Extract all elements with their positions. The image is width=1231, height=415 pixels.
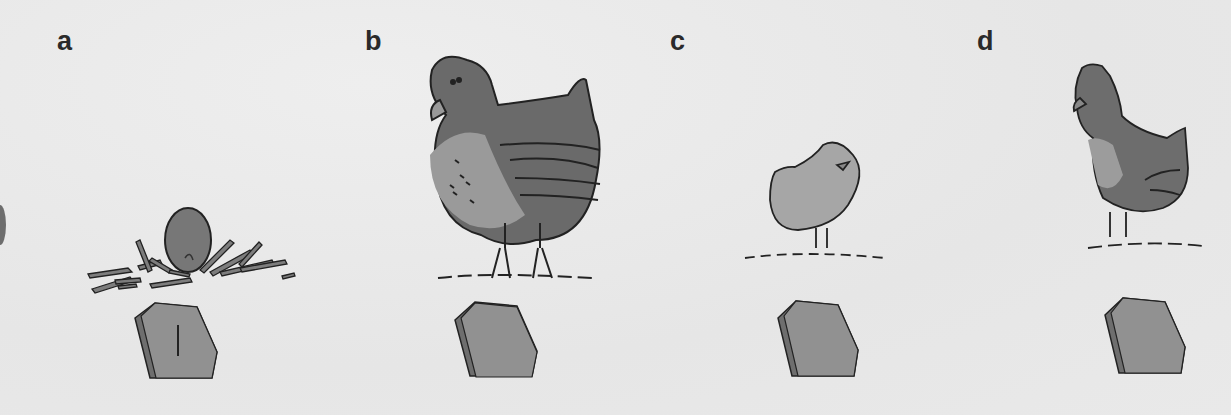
- egg-in-nest-illustration: [0, 0, 320, 415]
- panel-d: d: [940, 0, 1231, 415]
- chick-icon: [745, 143, 885, 258]
- panel-c: c: [640, 0, 940, 415]
- young-chicken-icon: [1074, 64, 1203, 248]
- stone-icon: [1105, 298, 1185, 373]
- stone-icon: [778, 301, 858, 376]
- panel-b: b: [320, 0, 640, 415]
- young-chicken-illustration: [940, 0, 1231, 415]
- stone-icon: [455, 302, 537, 377]
- panel-a: a: [0, 0, 320, 415]
- hen-illustration: [320, 0, 640, 415]
- egg-icon: [165, 208, 211, 272]
- stone-icon: [135, 303, 217, 378]
- hen-icon: [430, 57, 600, 278]
- chick-illustration: [640, 0, 940, 415]
